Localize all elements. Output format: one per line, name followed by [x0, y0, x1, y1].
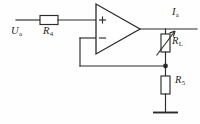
label-resistor-r4: R4	[43, 26, 53, 37]
schematic-canvas	[0, 0, 200, 124]
label-input-voltage: Ua	[11, 26, 22, 37]
resistor-r4-body	[40, 16, 58, 25]
circuit-diagram: Ua R4 Ia RL R5	[0, 0, 200, 124]
label-resistor-rl: RL	[172, 36, 183, 47]
label-output-current: Ia	[172, 7, 179, 18]
label-resistor-r5: R5	[175, 75, 185, 86]
opamp-triangle	[96, 4, 140, 54]
resistor-r5-body	[161, 76, 170, 94]
